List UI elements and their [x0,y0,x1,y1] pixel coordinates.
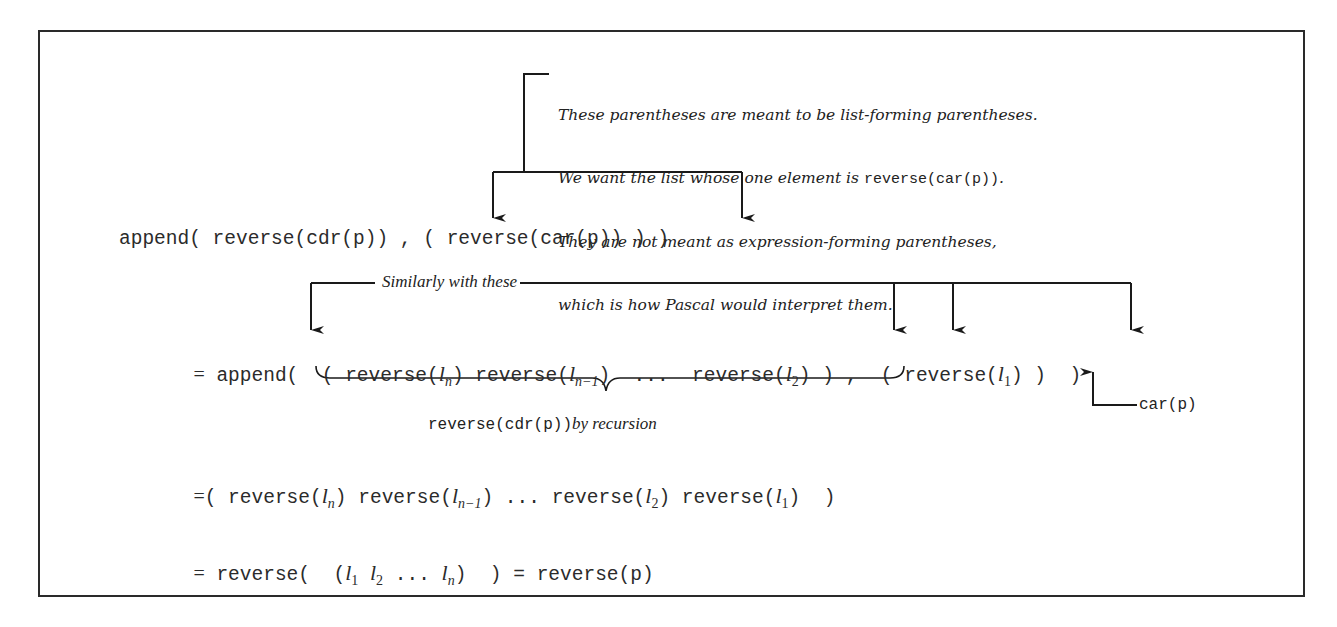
annotation-similarly: Similarly with these [382,272,517,292]
annotation-line-4: which is how Pascal would interpret them… [558,295,1038,316]
brace-label-code: reverse(cdr(p)) [428,416,572,434]
annotation-list-forming: These parentheses are meant to be list-f… [558,63,1038,337]
brace-label-text: by recursion [572,414,657,433]
annotation-line-1: These parentheses are meant to be list-f… [558,105,1038,126]
car-p-label: car(p) [1139,396,1197,414]
expression-line-2: = append( ( reverse(ln) reverse(ln−1) ..… [170,339,1081,390]
expression-line-1: append( reverse(cdr(p)) , ( reverse(car(… [119,228,669,250]
brace-label: reverse(cdr(p))by recursion [420,396,657,434]
inline-code: reverse(car(p)) [864,171,999,188]
expression-line-4: = reverse( (l1 l2 ... ln) ) = reverse(p) [170,538,654,589]
annotation-line-2: We want the list whose one element is re… [558,168,1038,190]
expression-line-3: =( reverse(ln) reverse(ln−1) ... reverse… [170,461,835,512]
